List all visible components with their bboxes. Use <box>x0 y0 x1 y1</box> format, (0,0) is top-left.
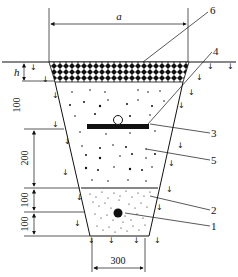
dimension-h-label: h <box>14 66 20 78</box>
svg-text:↓: ↓ <box>133 236 140 245</box>
svg-text:↓: ↓ <box>52 91 59 100</box>
cable-4 <box>114 116 123 125</box>
dimension-300-label: 300 <box>111 255 126 266</box>
svg-text:↓: ↓ <box>156 203 163 212</box>
svg-text:↓: ↓ <box>178 101 185 110</box>
backfill-stones <box>69 89 165 182</box>
svg-text:↓: ↓ <box>177 141 184 150</box>
svg-text:↓: ↓ <box>88 236 95 245</box>
callout-1: 1 <box>211 220 217 232</box>
svg-text:↓: ↓ <box>196 73 203 82</box>
svg-text:↓: ↓ <box>168 159 175 168</box>
dimension-200: 200 <box>19 151 30 166</box>
svg-text:↓: ↓ <box>42 75 49 84</box>
svg-text:↓: ↓ <box>166 185 173 194</box>
dimension-a: a <box>49 8 188 62</box>
callout-5: 5 <box>211 154 217 166</box>
svg-text:↓: ↓ <box>227 62 234 71</box>
svg-text:↓: ↓ <box>207 62 214 71</box>
surface-layer <box>49 62 189 82</box>
trench-left-wall <box>55 82 90 236</box>
left-dimensions <box>22 64 90 236</box>
svg-text:↓: ↓ <box>108 236 115 245</box>
dimension-100-upper: 100 <box>11 98 22 113</box>
svg-text:↓: ↓ <box>64 137 71 146</box>
callout-6: 6 <box>210 4 216 16</box>
svg-text:↓: ↓ <box>30 63 37 72</box>
trench-diagram: a <box>0 0 238 277</box>
svg-text:↓: ↓ <box>74 219 81 228</box>
callout-3: 3 <box>211 127 217 139</box>
dimension-a-label: a <box>116 10 122 22</box>
svg-text:↓: ↓ <box>76 193 83 202</box>
dimension-100-sand-lower: 100 <box>19 217 30 232</box>
svg-text:↓: ↓ <box>154 236 161 245</box>
dimension-100-sand-upper: 100 <box>19 193 30 208</box>
svg-text:↓: ↓ <box>52 120 59 129</box>
cable-1 <box>114 209 123 218</box>
svg-text:↓: ↓ <box>188 88 195 97</box>
callout-4: 4 <box>213 45 219 57</box>
svg-text:↓: ↓ <box>62 168 69 177</box>
callout-2: 2 <box>211 204 217 216</box>
